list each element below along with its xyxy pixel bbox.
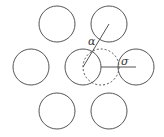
alpha-label: α [88, 35, 96, 48]
circle-top-left [39, 6, 75, 42]
circle-bottom-left [39, 93, 75, 129]
alpha-distance-line [83, 24, 109, 67]
circle-middle-left [13, 49, 49, 85]
hexagonal-lattice-diagram: α σ [0, 0, 164, 137]
sigma-label: σ [121, 55, 129, 68]
circle-bottom-right [91, 93, 127, 129]
